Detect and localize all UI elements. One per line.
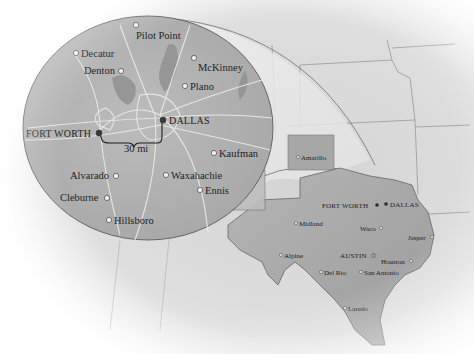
waco-marker[interactable] [380, 227, 383, 230]
waco-label: Waco [360, 225, 376, 233]
pilot-point-marker[interactable] [133, 22, 138, 27]
alpine-label: Alpine [284, 252, 303, 260]
tx-fort-worth-marker[interactable] [375, 203, 379, 207]
midland-label: Midland [299, 220, 323, 228]
mckinney-marker[interactable] [191, 55, 196, 60]
amarillo-label: Amarillo [301, 154, 327, 162]
decatur-marker[interactable] [73, 50, 78, 55]
tx-dallas-label: DALLAS [390, 201, 419, 209]
hillsboro-marker[interactable] [106, 217, 111, 222]
san-antonio-marker[interactable] [360, 271, 363, 274]
decatur-label: Decatur [81, 48, 115, 59]
jasper-marker[interactable] [431, 236, 434, 239]
austin-label: AUSTIN [340, 252, 367, 260]
houston-marker[interactable] [410, 260, 413, 263]
amarillo-marker[interactable] [297, 156, 300, 159]
alvarado-marker[interactable] [113, 173, 118, 178]
kaufman-label: Kaufman [219, 148, 259, 159]
map-canvas: FORT WORTH DALLAS 30 mi Pilot Point Deca… [0, 0, 474, 354]
ennis-marker[interactable] [197, 187, 202, 192]
ennis-label: Ennis [205, 185, 229, 196]
del-rio-label: Del Rio [324, 269, 346, 277]
plano-label: Plano [190, 81, 214, 92]
fort-worth-label: FORT WORTH [26, 128, 91, 139]
laredo-marker[interactable] [344, 307, 347, 310]
fort-worth-marker[interactable] [96, 130, 102, 136]
tx-dallas-marker[interactable] [384, 202, 388, 206]
denton-marker[interactable] [118, 68, 123, 73]
cleburne-marker[interactable] [104, 195, 109, 200]
san-antonio-label: San Antonio [364, 269, 399, 277]
alpine-marker[interactable] [280, 254, 283, 257]
scale-label: 30 mi [124, 143, 148, 154]
alvarado-label: Alvarado [70, 170, 109, 181]
waxahachie-label: Waxahachie [171, 170, 222, 181]
mckinney-label: McKinney [198, 62, 244, 73]
houston-label: Houston [381, 258, 405, 266]
jasper-label: Jasper [408, 234, 426, 242]
dallas-label: DALLAS [169, 115, 210, 126]
waxahachie-marker[interactable] [163, 172, 168, 177]
denton-label: Denton [84, 65, 116, 76]
panhandle-box [288, 135, 334, 170]
tx-fort-worth-label: FORT WORTH [322, 202, 368, 210]
pilot-point-label: Pilot Point [136, 30, 181, 41]
plano-marker[interactable] [182, 83, 187, 88]
del-rio-marker[interactable] [320, 271, 323, 274]
laredo-label: Laredo [348, 305, 368, 313]
austin-capital-star-icon[interactable]: ☆ [370, 251, 377, 260]
cleburne-label: Cleburne [60, 192, 99, 203]
hillsboro-label: Hillsboro [114, 215, 154, 226]
kaufman-marker[interactable] [211, 150, 216, 155]
midland-marker[interactable] [295, 222, 298, 225]
dallas-marker[interactable] [160, 117, 166, 123]
